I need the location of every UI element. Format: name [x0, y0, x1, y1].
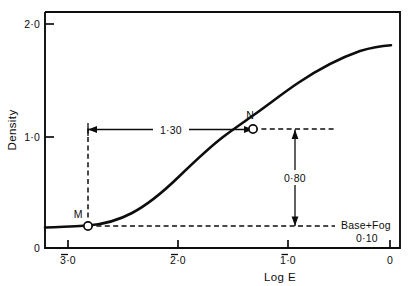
base-fog-annotation: Base+Fog 0·10 — [341, 219, 391, 244]
y-tick-labels: 2·0 1·0 0 — [24, 18, 40, 254]
y-tick-label-1-0: 1·0 — [24, 131, 40, 143]
point-n-label: N — [246, 109, 254, 121]
point-m-marker — [84, 222, 92, 230]
delta-log-e-annotation: 1·30 — [88, 122, 253, 137]
x-tick-label-neg2-0: 2·0 — [170, 254, 186, 266]
x-axis-title: Log E — [264, 271, 296, 283]
y-tick-label-2-0: 2·0 — [24, 18, 40, 30]
x-tick-label-neg1-0: 1·0 — [280, 254, 296, 266]
x-axis-ticks — [68, 240, 390, 248]
y-tick-label-0: 0 — [34, 242, 40, 254]
x-tick-labels: 3·0 2·0 1·0 0 — [60, 254, 393, 266]
delta-density-arrowhead-bottom — [292, 217, 299, 227]
base-fog-label: Base+Fog — [341, 219, 391, 231]
base-fog-value: 0·10 — [356, 232, 378, 244]
characteristic-curve — [45, 45, 391, 227]
y-axis-ticks — [45, 24, 54, 137]
x-tick-label-neg3-0: 3·0 — [60, 254, 76, 266]
delta-density-arrowhead-top — [292, 130, 299, 140]
delta-log-e-label: 1·30 — [160, 124, 182, 136]
delta-density-label: 0·80 — [284, 172, 306, 184]
y-axis-title: Density — [6, 109, 18, 150]
x-tick-label-0: 0 — [387, 254, 393, 266]
point-n-marker — [249, 125, 257, 133]
delta-density-annotation: 0·80 — [277, 130, 313, 227]
delta-log-e-arrowhead-left — [88, 126, 97, 133]
point-m-label: M — [74, 208, 83, 220]
characteristic-curve-chart: 2·0 1·0 0 3·0 2·0 1·0 0 Log E Density — [0, 0, 414, 286]
chart-figure: 2·0 1·0 0 3·0 2·0 1·0 0 Log E Density — [0, 0, 414, 286]
